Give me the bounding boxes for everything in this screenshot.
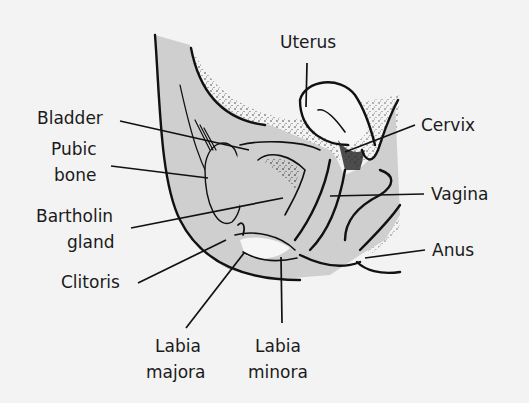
label-clitoris: Clitoris	[61, 272, 120, 292]
label-bladder: Bladder	[37, 108, 103, 128]
label-labia-minora-line2: minora	[248, 362, 308, 382]
leader-labia-minora	[281, 257, 282, 323]
label-pubic-line1: Pubic	[51, 139, 97, 159]
leader-clitoris	[138, 240, 226, 283]
label-vagina: Vagina	[431, 184, 488, 204]
label-anus: Anus	[432, 240, 474, 260]
label-pubic-line2: bone	[54, 165, 96, 185]
anatomy-diagram: Uterus Bladder Cervix Pubic bone Vagina …	[0, 0, 529, 403]
label-bartholin-line2: gland	[67, 232, 115, 252]
label-cervix: Cervix	[421, 115, 475, 135]
label-labia-majora-line1: Labia	[155, 336, 201, 356]
label-labia-majora-line2: majora	[146, 362, 206, 382]
leader-labia-majora	[186, 253, 244, 328]
label-uterus: Uterus	[280, 32, 336, 52]
label-bartholin-line1: Bartholin	[36, 206, 113, 226]
label-labia-minora-line1: Labia	[255, 336, 301, 356]
leader-uterus	[306, 63, 307, 107]
